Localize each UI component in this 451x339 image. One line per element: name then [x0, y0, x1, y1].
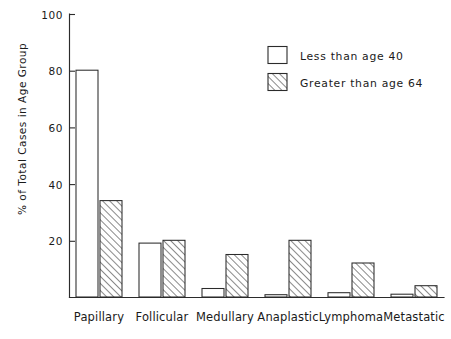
x-label-papillary: Papillary — [74, 310, 124, 324]
x-label-medullary: Medullary — [196, 310, 254, 324]
chart-svg: 100 80 60 40 20 % of Total Cases in Age … — [0, 0, 451, 339]
bar-follicular-greater-than-64 — [163, 240, 185, 297]
y-tick-label-40: 40 — [48, 179, 63, 191]
legend-swatch-less-than-40 — [268, 47, 287, 64]
x-label-metastatic: Metastatic — [383, 310, 445, 324]
y-axis-title: % of Total Cases in Age Group — [16, 43, 28, 215]
bar-papillary-greater-than-64 — [100, 201, 122, 297]
x-label-lymphoma: Lymphoma — [319, 310, 383, 324]
y-tick-label-20: 20 — [48, 235, 63, 247]
legend-label-less-than-40: Less than age 40 — [300, 50, 404, 63]
bar-papillary-less-than-40 — [76, 70, 98, 297]
legend-swatch-greater-than-64 — [268, 74, 287, 91]
bar-metastatic-less-than-40 — [391, 294, 413, 297]
bar-chart-figure: 100 80 60 40 20 % of Total Cases in Age … — [0, 0, 451, 339]
x-label-follicular: Follicular — [136, 310, 189, 324]
y-tick-label-100: 100 — [41, 9, 63, 21]
y-tick-label-60: 60 — [48, 122, 63, 134]
bar-medullary-greater-than-64 — [226, 255, 248, 298]
bar-follicular-less-than-40 — [139, 243, 161, 297]
bar-lymphoma-less-than-40 — [328, 293, 350, 297]
bar-anaplastic-greater-than-64 — [289, 240, 311, 297]
x-label-anaplastic: Anaplastic — [257, 310, 318, 324]
legend-label-greater-than-64: Greater than age 64 — [300, 77, 423, 90]
y-tick-label-80: 80 — [48, 65, 63, 77]
bar-metastatic-greater-than-64 — [415, 286, 437, 297]
bar-medullary-less-than-40 — [202, 289, 224, 298]
bar-anaplastic-less-than-40 — [265, 295, 287, 297]
bar-lymphoma-greater-than-64 — [352, 263, 374, 297]
